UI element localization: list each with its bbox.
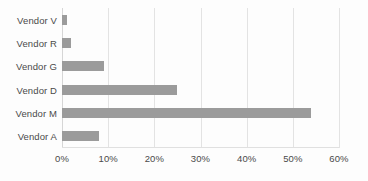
category-label: Vendor M — [16, 107, 57, 118]
bar-row: Vendor A — [62, 125, 339, 148]
bar-chart: Vendor VVendor RVendor GVendor DVendor M… — [0, 0, 368, 181]
bar-row: Vendor V — [62, 8, 339, 31]
category-label: Vendor A — [18, 131, 57, 142]
bar[interactable] — [62, 61, 104, 71]
category-label: Vendor V — [17, 14, 57, 25]
bar[interactable] — [62, 38, 71, 48]
plot-area: Vendor VVendor RVendor GVendor DVendor M… — [62, 8, 339, 148]
x-axis-tick-label: 30% — [191, 153, 210, 164]
gridline-60pct — [339, 8, 340, 148]
x-axis-tick-label: 20% — [145, 153, 164, 164]
x-axis-tick-label: 50% — [283, 153, 302, 164]
bar-row: Vendor D — [62, 78, 339, 101]
bar[interactable] — [62, 85, 177, 95]
bar-row: Vendor G — [62, 55, 339, 78]
category-label: Vendor R — [17, 37, 57, 48]
bar-row: Vendor R — [62, 31, 339, 54]
x-axis-tick-label: 40% — [237, 153, 256, 164]
x-axis-tick-label: 60% — [329, 153, 348, 164]
bar[interactable] — [62, 108, 311, 118]
x-axis-tick-label: 0% — [55, 153, 69, 164]
x-axis-tick-label: 10% — [98, 153, 117, 164]
category-label: Vendor G — [16, 61, 57, 72]
bar[interactable] — [62, 15, 67, 25]
bar-row: Vendor M — [62, 101, 339, 124]
category-label: Vendor D — [17, 84, 57, 95]
x-axis-line — [62, 147, 339, 148]
bar[interactable] — [62, 131, 99, 141]
